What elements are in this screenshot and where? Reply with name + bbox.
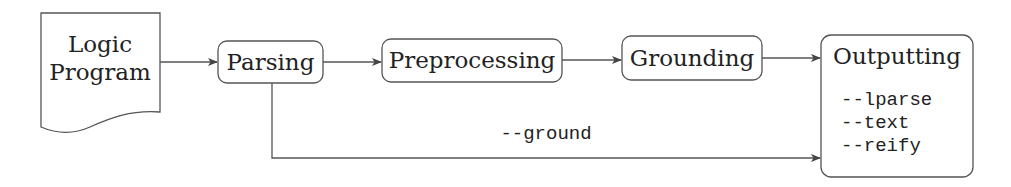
- parsing-node: Parsing: [218, 41, 323, 83]
- grounding-label: Grounding: [630, 45, 755, 71]
- edge-parsing-to-outputting-ground: [272, 83, 820, 158]
- option-text: --text: [841, 112, 909, 134]
- logic-program-node: Logic Program: [41, 13, 160, 132]
- outputting-node: Outputting --lparse --text --reify: [821, 35, 973, 177]
- option-reify: --reify: [841, 135, 921, 157]
- option-lparse: --lparse: [841, 89, 932, 111]
- parsing-label: Parsing: [227, 49, 315, 75]
- preprocessing-label: Preprocessing: [389, 47, 556, 73]
- ground-option-label: --ground: [500, 123, 591, 145]
- logic-program-label-line1: Logic: [68, 31, 132, 57]
- outputting-label: Outputting: [833, 43, 961, 69]
- grounding-node: Grounding: [622, 36, 762, 80]
- preprocessing-node: Preprocessing: [382, 39, 562, 82]
- pipeline-diagram: Logic Program Parsing Preprocessing Grou…: [0, 0, 1011, 187]
- logic-program-label-line2: Program: [49, 59, 151, 85]
